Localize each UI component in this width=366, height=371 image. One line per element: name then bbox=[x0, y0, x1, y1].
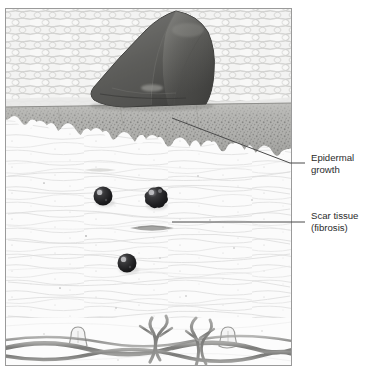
wound-healing-figure: Epidermal growth Scar tissue (fibrosis) bbox=[0, 0, 366, 371]
figure-canvas: Epidermal growth Scar tissue (fibrosis) bbox=[0, 0, 366, 371]
deep-fiber-band bbox=[5, 316, 292, 366]
illustration-panel bbox=[5, 8, 292, 366]
callout-label-scar-tissue-line2: (fibrosis) bbox=[311, 222, 348, 233]
callout-label-epidermal-growth-line2: growth bbox=[311, 164, 340, 175]
callout-label-scar-tissue-line1: Scar tissue bbox=[311, 210, 358, 221]
callout-label-epidermal-growth-line1: Epidermal bbox=[311, 152, 354, 163]
